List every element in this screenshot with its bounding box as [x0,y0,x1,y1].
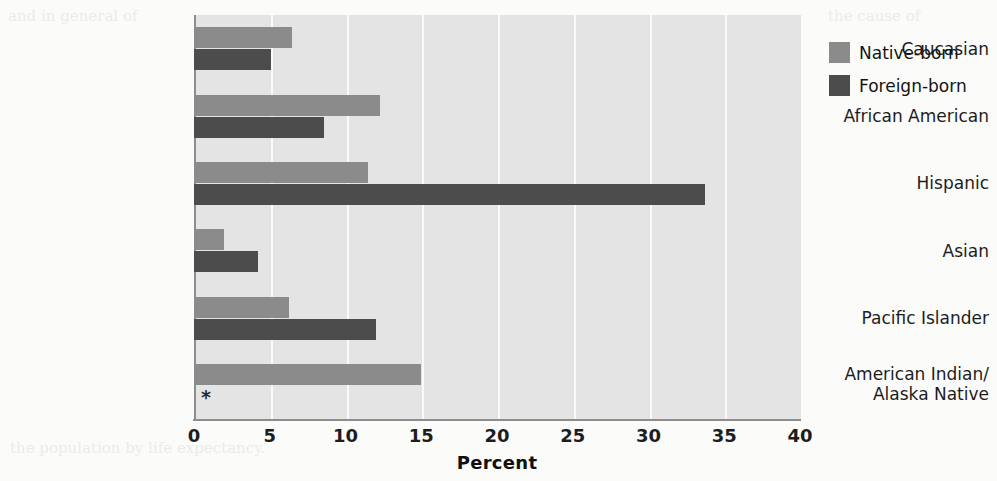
bar-native-born-2[interactable] [194,162,368,183]
x-tick-0: 0 [164,425,224,446]
gridline-20 [498,15,500,419]
x-tick-20: 20 [467,425,527,446]
legend: Native-born Foreign-born [829,36,967,102]
bar-foreign-born-3[interactable] [194,251,258,272]
category-label-line1: Asian [943,241,989,261]
category-label-line2: Alaska Native [811,384,989,404]
bar-native-born-0[interactable] [194,27,292,48]
category-label-line1: American Indian/ [844,364,989,384]
legend-label-foreign-born: Foreign-born [859,76,967,96]
plot-area [194,15,802,419]
legend-item-foreign-born[interactable]: Foreign-born [829,69,967,102]
x-tick-10: 10 [316,425,376,446]
bar-native-born-3[interactable] [194,229,224,250]
chart-page: and in general of the cause of the popul… [0,0,997,481]
x-axis-title: Percent [194,452,800,473]
bar-native-born-5[interactable] [194,364,421,385]
category-label-line1: Hispanic [917,173,989,193]
bleedthrough-right: the cause of [828,4,997,30]
bar-foreign-born-0[interactable] [194,49,271,70]
x-tick-35: 35 [694,425,754,446]
bar-foreign-born-1[interactable] [194,117,324,138]
legend-swatch-foreign-born [829,75,850,96]
category-label-line1: African American [843,106,989,126]
category-label-line1: Pacific Islander [862,308,989,328]
category-label-1: African American [811,106,997,126]
gridline-30 [650,15,652,419]
bar-native-born-1[interactable] [194,95,380,116]
x-tick-30: 30 [619,425,679,446]
x-tick-40: 40 [770,425,830,446]
x-tick-25: 25 [543,425,603,446]
gridline-40 [801,15,803,419]
category-label-5: American Indian/Alaska Native [811,364,997,404]
legend-label-native-born: Native-born [859,43,959,63]
bar-foreign-born-4[interactable] [194,319,376,340]
bar-foreign-born-2[interactable] [194,184,705,205]
legend-item-native-born[interactable]: Native-born [829,36,967,69]
x-tick-15: 15 [391,425,451,446]
no-data-asterisk: * [201,388,211,407]
bar-native-born-4[interactable] [194,297,289,318]
category-label-3: Asian [811,241,997,261]
gridline-5 [271,15,273,419]
category-label-2: Hispanic [811,173,997,193]
x-axis-line [193,419,801,421]
gridline-35 [725,15,727,419]
legend-swatch-native-born [829,42,850,63]
gridline-25 [574,15,576,419]
gridline-15 [422,15,424,419]
bleedthrough-left: and in general of [8,4,188,30]
category-label-4: Pacific Islander [811,308,997,328]
gridline-10 [347,15,349,419]
x-tick-5: 5 [240,425,300,446]
